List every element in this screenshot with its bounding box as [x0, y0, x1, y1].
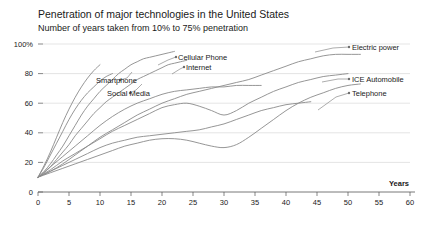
x-tick-label: 20	[158, 198, 166, 207]
series-label-social-media: Social Media	[107, 89, 151, 98]
x-axis-title: Years	[389, 179, 409, 188]
x-tick-label: 25	[189, 198, 197, 207]
x-tick-label: 30	[220, 198, 228, 207]
x-tick-label: 5	[67, 198, 71, 207]
series-label-ice-automobile: ICE Automobile	[352, 75, 404, 84]
x-tick-label: 35	[251, 198, 259, 207]
technology-penetration-chart: Penetration of major technologies in the…	[0, 0, 429, 226]
y-tick-label: 60	[25, 99, 33, 108]
y-tick-label: 100%	[14, 40, 34, 49]
y-tick-label: 80	[25, 69, 33, 78]
y-tick-label: 20	[25, 158, 33, 167]
series-label-dot	[175, 56, 177, 58]
series-label-dot	[183, 66, 185, 68]
x-tick-label: 10	[96, 198, 104, 207]
x-tick-label: 45	[313, 198, 321, 207]
chart-subtitle: Number of years taken from 10% to 75% pe…	[38, 23, 248, 33]
y-tick-label: 0	[29, 188, 33, 197]
series-label-cellular-phone: Cellular Phone	[178, 53, 227, 62]
x-tick-label: 15	[127, 198, 135, 207]
series-label-telephone: Telephone	[352, 89, 387, 98]
x-tick-label: 40	[282, 198, 290, 207]
x-tick-label: 60	[406, 198, 414, 207]
x-tick-label: 55	[375, 198, 383, 207]
series-label-smartphone: Smartphone	[96, 76, 137, 85]
series-label-dot	[348, 46, 350, 48]
series-label-electric-power: Electric power	[352, 43, 400, 52]
series-label-dot	[348, 78, 350, 80]
x-tick-label: 0	[36, 198, 40, 207]
x-tick-label: 50	[344, 198, 352, 207]
series-label-internet: Internet	[186, 63, 212, 72]
series-label-dot	[348, 92, 350, 94]
chart-title: Penetration of major technologies in the…	[38, 8, 289, 20]
y-tick-label: 40	[25, 128, 33, 137]
